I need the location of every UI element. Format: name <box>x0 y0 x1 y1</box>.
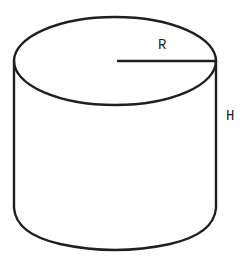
cylinder-diagram: R H <box>0 0 248 262</box>
height-label: H <box>226 108 234 124</box>
bottom-arc <box>14 208 216 250</box>
radius-label: R <box>158 37 167 53</box>
